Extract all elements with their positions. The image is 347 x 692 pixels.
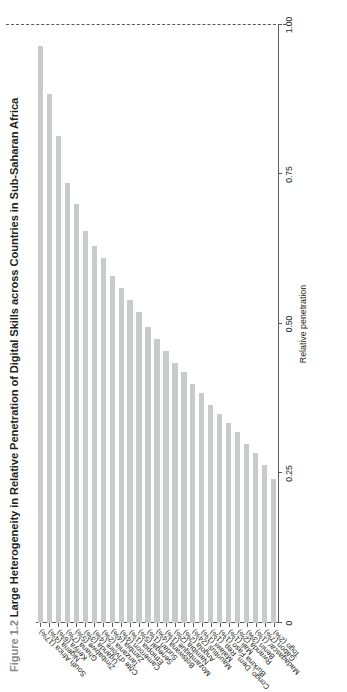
bar [226, 423, 231, 623]
category-label: Uganda (3%) [82, 628, 120, 666]
bar [271, 479, 276, 623]
category-label: Senegal (5%) [136, 628, 175, 667]
bar [253, 453, 258, 623]
category-label: Kenya (6%) [55, 628, 89, 662]
bar [47, 94, 52, 623]
bar-item [271, 25, 276, 623]
bar-item [119, 25, 124, 623]
category-label: Angola (2%) [181, 628, 217, 664]
value-tick [278, 174, 282, 175]
category-label: Benin (3%) [243, 628, 276, 661]
bar-item [92, 25, 97, 623]
bar [119, 288, 124, 623]
bar-item [163, 25, 168, 623]
category-label: Zimbabwe (5%) [73, 628, 117, 672]
category-tick [256, 623, 257, 627]
bar-item [190, 25, 195, 623]
category-label: Namibia (2%) [172, 628, 211, 667]
bar-item [136, 25, 141, 623]
category-label: Burkina Faso (1%) [217, 628, 268, 679]
bar-item [38, 25, 43, 623]
category-label: Mozambique (1%) [163, 628, 213, 678]
bar-item [262, 25, 267, 623]
bar [190, 384, 195, 623]
category-label: Côte d'Ivoire (4%) [91, 628, 140, 677]
category-tick [238, 623, 239, 627]
bar-item [244, 25, 249, 623]
category-tick [121, 623, 122, 627]
bar [65, 183, 70, 623]
category-tick [184, 623, 185, 627]
figure-title: Figure 1.2 Large Heterogeneity in Relati… [8, 12, 20, 672]
value-axis-title: Relative penetration [298, 25, 308, 623]
bar [145, 327, 150, 623]
bar-item [199, 25, 204, 623]
category-tick [139, 623, 140, 627]
value-tick [278, 24, 282, 25]
category-label: Cameroon (4%) [118, 628, 162, 672]
category-tick [85, 623, 86, 627]
category-tick [103, 623, 104, 627]
category-label: Congo, Dem. Rep. (1%) [208, 628, 272, 692]
category-label: Botswana (4%) [154, 628, 197, 671]
category-tick [157, 623, 158, 627]
category-label: Mali (1%) [226, 628, 255, 657]
category-label: Sudan (1%) [145, 628, 180, 663]
bar [172, 363, 177, 623]
bar-item [83, 25, 88, 623]
figure-number: Figure 1.2 [8, 620, 20, 672]
value-tick-label: 0.50 [284, 316, 294, 333]
bar [38, 46, 43, 623]
bar [208, 405, 213, 623]
bar [199, 393, 204, 623]
category-tick [229, 623, 230, 627]
bar-item [172, 25, 177, 623]
plot-area: Global [36, 25, 278, 623]
bar-item [253, 25, 258, 623]
bar-item [47, 25, 52, 623]
bar [244, 444, 249, 623]
value-tick-label: 1.00 [284, 17, 294, 34]
bar-item [101, 25, 106, 623]
category-tick [220, 623, 221, 627]
bar [127, 300, 132, 623]
bar-item [208, 25, 213, 623]
bar-item [56, 25, 61, 623]
category-label: Ethiopia (1%) [127, 628, 166, 667]
bar-item [154, 25, 159, 623]
category-tick [76, 623, 77, 627]
category-tick [67, 623, 68, 627]
bar [262, 465, 267, 623]
bar [163, 351, 168, 623]
category-label: Mauritius (24%) [190, 628, 234, 672]
bar-item [226, 25, 231, 623]
bar [217, 414, 222, 623]
bar [74, 204, 79, 623]
category-label: Malawi (1%) [199, 628, 235, 664]
bar-item [74, 25, 79, 623]
global-reference-line [6, 24, 286, 25]
bar [181, 372, 186, 623]
category-tick [94, 623, 95, 627]
bar-item [65, 25, 70, 623]
category-tick [148, 623, 149, 627]
bar-item [110, 25, 115, 623]
category-label: Madagascar (1%) [252, 628, 301, 677]
bar-item [235, 25, 240, 623]
category-label: Ghana (7%) [64, 628, 99, 663]
category-label: Tanzania (2%) [100, 628, 141, 669]
value-tick-label: 0 [284, 621, 294, 626]
value-tick [278, 622, 282, 623]
category-tick [112, 623, 113, 627]
category-tick [265, 623, 266, 627]
bar-item [127, 25, 132, 623]
category-label: South Africa (17%) [37, 628, 88, 679]
bar [136, 312, 141, 623]
value-tick [278, 473, 282, 474]
category-tick [58, 623, 59, 627]
category-label: Rwanda (2%) [234, 628, 273, 667]
value-axis-line [278, 25, 279, 623]
bar-item [217, 25, 222, 623]
